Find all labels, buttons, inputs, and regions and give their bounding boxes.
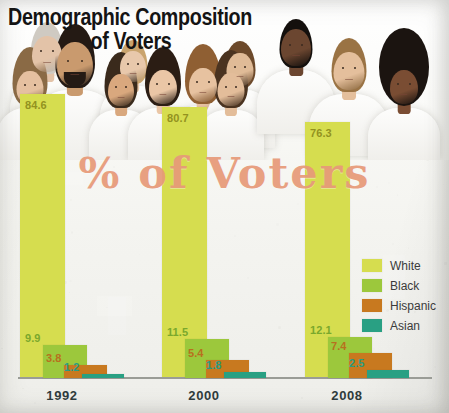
bar-value-label-white-2008: 76.3	[310, 127, 332, 139]
bar-value-label-white-1992: 84.6	[25, 99, 47, 111]
bar-value-label-hispanic-1992: 3.8	[46, 352, 62, 364]
bar-value-label-asian-1992: 1.2	[64, 361, 80, 373]
page-title: Demographic Composition of Voters	[8, 5, 254, 54]
legend-item-hispanic[interactable]: Hispanic	[362, 299, 436, 312]
legend-item-white[interactable]: White	[362, 259, 436, 272]
bar-value-label-asian-2000: 1.8	[206, 359, 222, 371]
legend-label-asian: Asian	[390, 320, 420, 332]
legend-item-black[interactable]: Black	[362, 279, 436, 292]
legend-swatch-hispanic	[362, 299, 382, 312]
legend-swatch-asian	[362, 319, 382, 332]
infographic-poster: Demographic Composition of Voters % of V…	[0, 0, 449, 413]
bar-asian-2000[interactable]	[224, 372, 266, 378]
chart-legend: WhiteBlackHispanicAsian	[362, 259, 436, 332]
bar-value-label-hispanic-2000: 5.4	[188, 347, 204, 359]
bar-value-label-asian-2008: 2.5	[349, 357, 365, 369]
bar-value-label-white-2000: 80.7	[167, 112, 189, 124]
x-axis-label-2000: 2000	[188, 388, 219, 403]
legend-item-asian[interactable]: Asian	[362, 319, 436, 332]
legend-swatch-black	[362, 279, 382, 292]
x-axis-label-1992: 1992	[46, 388, 77, 403]
legend-label-hispanic: Hispanic	[390, 300, 436, 312]
title-line-1: Demographic Composition	[8, 5, 254, 29]
bar-value-label-hispanic-2008: 7.4	[331, 340, 347, 352]
legend-label-black: Black	[390, 280, 419, 292]
x-axis-label-2008: 2008	[331, 388, 362, 403]
legend-swatch-white	[362, 259, 382, 272]
bar-value-label-black-1992: 9.9	[25, 332, 41, 344]
bar-value-label-black-2008: 12.1	[310, 324, 332, 336]
legend-label-white: White	[390, 260, 421, 272]
bar-asian-2008[interactable]	[367, 370, 409, 378]
bar-value-label-black-2000: 11.5	[167, 326, 188, 338]
bar-asian-1992[interactable]	[82, 374, 124, 378]
watermark-percent-of-voters: % of Voters	[0, 148, 449, 198]
title-line-2: of Voters	[8, 29, 254, 53]
bar-chart: 84.69.93.81.2199280.711.55.41.8200076.31…	[0, 0, 449, 413]
